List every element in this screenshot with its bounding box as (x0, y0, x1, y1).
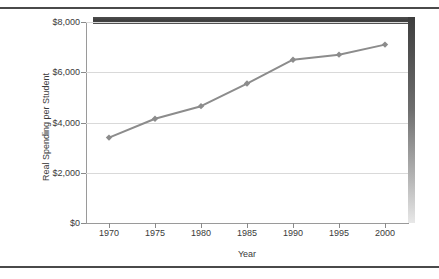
spending-line-series (86, 22, 408, 223)
x-axis-title: Year (86, 249, 408, 259)
x-tick-label: 1980 (191, 228, 211, 238)
y-tick-label: $6,000 (52, 67, 80, 77)
data-point-marker (336, 51, 342, 57)
x-tick-label: 1990 (283, 228, 303, 238)
y-tick-label: $0 (70, 218, 80, 228)
data-point-marker (198, 103, 204, 109)
figure-frame: Real Spending per Student $0 $2,000 $4,0… (0, 0, 439, 279)
x-tick-label: 1985 (237, 228, 257, 238)
data-point-marker (382, 41, 388, 47)
x-axis-tick-labels: 1970 1975 1980 1985 1990 1995 2000 (86, 228, 416, 242)
figure-top-rule (0, 7, 439, 9)
y-tick-label: $4,000 (52, 118, 80, 128)
series-markers (106, 41, 388, 140)
frame-shadow-right (408, 17, 415, 223)
x-tick-label: 1995 (329, 228, 349, 238)
data-point-marker (106, 134, 112, 140)
series-polyline (109, 45, 385, 138)
y-tick-label: $8,000 (52, 17, 80, 27)
y-tick-label: $2,000 (52, 168, 80, 178)
figure-bottom-rule (0, 266, 439, 268)
x-tick-label: 1975 (145, 228, 165, 238)
plot-area (86, 22, 408, 223)
data-point-marker (152, 116, 158, 122)
x-tick-label: 1970 (99, 228, 119, 238)
x-tick-label: 2000 (375, 228, 395, 238)
y-axis-tick (81, 223, 86, 224)
y-axis-tick-labels: $0 $2,000 $4,000 $6,000 $8,000 (0, 22, 80, 223)
